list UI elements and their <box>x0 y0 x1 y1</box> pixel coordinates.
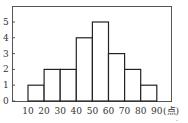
histogram-bar <box>125 69 141 101</box>
x-axis-ticks: 102030405060708090 <box>22 106 163 116</box>
histogram-bars <box>28 22 157 101</box>
x-tick-label: 30 <box>54 106 66 116</box>
histogram-bar <box>44 69 60 101</box>
x-tick-label: 40 <box>71 106 83 116</box>
x-tick-label: 10 <box>22 106 34 116</box>
x-tick-label: 50 <box>87 106 99 116</box>
x-tick-label: 70 <box>119 106 131 116</box>
histogram-bar <box>109 54 125 101</box>
y-tick-label: 5 <box>3 17 9 27</box>
y-tick-label: 4 <box>3 33 9 43</box>
histogram-bar <box>28 85 44 101</box>
y-axis-ticks: 012345 <box>3 17 15 106</box>
x-tick-label: 60 <box>103 106 115 116</box>
x-tick-label: 20 <box>38 106 50 116</box>
x-tick-label: 90 <box>151 106 163 116</box>
histogram-bar <box>60 69 76 101</box>
footnote: . <box>176 115 178 122</box>
histogram-bar <box>92 22 108 101</box>
histogram-bar <box>141 85 157 101</box>
y-tick-label: 0 <box>3 96 9 106</box>
x-tick-label: 80 <box>135 106 147 116</box>
histogram-chart: 012345 102030405060708090 (点) . <box>0 0 188 123</box>
y-tick-label: 1 <box>3 80 9 90</box>
y-tick-label: 3 <box>3 49 9 59</box>
y-tick-label: 2 <box>3 64 9 74</box>
histogram-bar <box>76 38 92 101</box>
